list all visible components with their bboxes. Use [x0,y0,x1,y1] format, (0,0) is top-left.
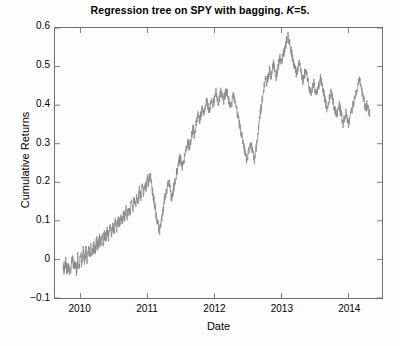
y-tick-label: 0.3 [4,137,50,148]
y-tick-label: −0.1 [4,292,50,303]
x-tick-label: 2013 [252,303,312,314]
x-tick-label: 2014 [319,303,379,314]
chart-title-suffix: =5. [294,4,309,16]
chart-title: Regression tree on SPY with bagging. K=5… [0,4,400,16]
y-axis-tick-labels: −0.100.10.20.30.40.50.6 [0,0,50,346]
chart-title-prefix: Regression tree on SPY with bagging. [91,4,287,16]
y-tick-label: 0 [4,253,50,264]
chart-figure: Regression tree on SPY with bagging. K=5… [0,0,400,346]
plot-area [54,27,383,299]
y-tick-label: 0.2 [4,175,50,186]
data-series-svg [55,28,382,298]
x-tick-label: 2010 [50,303,110,314]
y-tick-label: 0.5 [4,59,50,70]
x-tick-label: 2012 [184,303,244,314]
x-axis-label: Date [54,320,383,332]
x-axis-tick-labels: 20102011201220132014 [0,303,400,319]
y-tick-label: 0.6 [4,20,50,31]
y-tick-label: 0.1 [4,214,50,225]
cumulative-returns-line [63,32,370,276]
x-tick-label: 2011 [117,303,177,314]
y-tick-label: 0.4 [4,98,50,109]
